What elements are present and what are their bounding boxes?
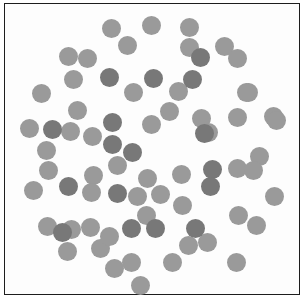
scatter-dot — [183, 70, 202, 89]
scatter-dot — [128, 187, 147, 206]
scatter-dot — [228, 49, 247, 68]
scatter-dot — [103, 135, 122, 154]
scatter-dot — [228, 108, 247, 127]
scatter-dot-layer — [0, 0, 306, 302]
scatter-dot — [131, 276, 150, 295]
scatter-dot — [142, 115, 161, 134]
scatter-dot — [227, 253, 246, 272]
scatter-dot — [102, 19, 121, 38]
scatter-dot — [43, 120, 62, 139]
scatter-dot — [39, 161, 58, 180]
scatter-dot — [138, 169, 157, 188]
scatter-dot — [81, 218, 100, 237]
scatter-dot — [100, 68, 119, 87]
scatter-dot — [146, 219, 165, 238]
scatter-dot — [64, 70, 83, 89]
scatter-dot — [83, 127, 102, 146]
scatter-dot — [142, 16, 161, 35]
scatter-dot — [180, 18, 199, 37]
scatter-dot — [123, 143, 142, 162]
scatter-dot — [82, 183, 101, 202]
scatter-dot — [195, 124, 214, 143]
scatter-dot — [59, 177, 78, 196]
scatter-dot — [265, 187, 284, 206]
scatter-dot — [229, 206, 248, 225]
scatter-dot — [124, 83, 143, 102]
scatter-dot — [244, 161, 263, 180]
scatter-dot — [32, 84, 51, 103]
scatter-dot — [103, 113, 122, 132]
scatter-dot — [173, 196, 192, 215]
scatter-dot — [61, 122, 80, 141]
scatter-dot — [84, 166, 103, 185]
scatter-dot — [105, 259, 124, 278]
scatter-dot — [172, 165, 191, 184]
scatter-dot — [53, 223, 72, 242]
scatter-dot — [191, 48, 210, 67]
scatter-dot — [24, 181, 43, 200]
scatter-dot — [151, 185, 170, 204]
scatter-dot — [144, 69, 163, 88]
scatter-dot — [68, 101, 87, 120]
scatter-dot — [78, 49, 97, 68]
scatter-dot — [37, 141, 56, 160]
scatter-dot — [201, 177, 220, 196]
scatter-dot — [160, 102, 179, 121]
scatter-dot — [186, 219, 205, 238]
scatter-dot — [122, 253, 141, 272]
scatter-dot — [179, 236, 198, 255]
scatter-dot — [108, 184, 127, 203]
scatter-dot — [108, 156, 127, 175]
scatter-dot — [247, 216, 266, 235]
scatter-dot — [122, 219, 141, 238]
scatter-dot — [58, 242, 77, 261]
scatter-dot — [59, 47, 78, 66]
scatter-dot — [203, 160, 222, 179]
scatter-dot — [267, 111, 286, 130]
scatter-dot — [239, 83, 258, 102]
scatter-dot — [20, 119, 39, 138]
figure-frame — [0, 0, 306, 302]
scatter-dot — [118, 36, 137, 55]
scatter-dot — [163, 253, 182, 272]
scatter-dot — [100, 227, 119, 246]
